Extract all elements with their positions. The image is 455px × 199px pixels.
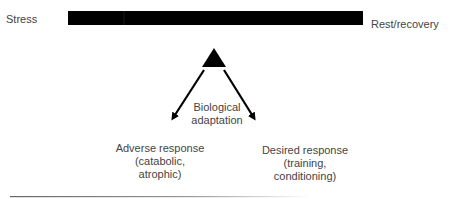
desired-line2: (training, [255, 157, 355, 170]
adverse-line2: (catabolic, [110, 155, 210, 168]
bio-line1: Biological [182, 101, 252, 114]
fulcrum-triangle [202, 48, 226, 67]
stress-label: Stress [6, 13, 37, 26]
desired-line1: Desired response [255, 144, 355, 157]
bottom-rule [10, 196, 310, 197]
biological-adaptation-label: Biological adaptation [182, 101, 252, 127]
desired-response-label: Desired response (training, conditioning… [255, 144, 355, 183]
bio-line2: adaptation [182, 114, 252, 127]
adverse-line3: atrophic) [110, 168, 210, 181]
balance-bar [68, 11, 363, 25]
adverse-line1: Adverse response [110, 142, 210, 155]
desired-line3: conditioning) [255, 170, 355, 183]
rest-recovery-label: Rest/recovery [371, 18, 439, 31]
adverse-response-label: Adverse response (catabolic, atrophic) [110, 142, 210, 181]
